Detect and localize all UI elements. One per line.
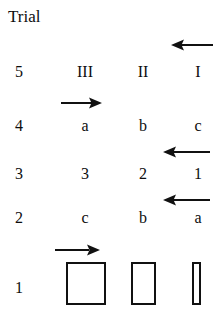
row3-col3: 1 (178, 166, 218, 182)
row-label-2: 2 (5, 210, 33, 226)
bar-wide (66, 262, 106, 305)
row4-col1: a (65, 118, 105, 134)
row3-col2: 2 (123, 166, 163, 182)
row5-col3: I (178, 64, 218, 80)
row2-col3: a (178, 210, 218, 226)
row-label-3: 3 (5, 166, 33, 182)
row-label-4: 4 (5, 118, 33, 134)
trial-diagram: Trial 5 III II I 4 a b c 3 3 2 1 (0, 0, 220, 321)
row2-col1: c (65, 210, 105, 226)
row3-col1: 3 (65, 166, 105, 182)
page-title: Trial (8, 8, 40, 25)
row5-col1: III (65, 64, 105, 80)
row2-col2: b (123, 210, 163, 226)
row4-col2: b (123, 118, 163, 134)
bar-medium (131, 262, 156, 305)
arrow-left-row5 (171, 38, 214, 52)
arrow-left-row2 (163, 193, 211, 207)
row-label-5: 5 (5, 64, 33, 80)
arrow-left-row3 (163, 145, 211, 159)
arrow-right-row1 (55, 243, 100, 257)
row4-col3: c (178, 118, 218, 134)
arrow-right-row4 (61, 96, 102, 110)
row5-col2: II (123, 64, 163, 80)
bar-narrow (192, 262, 201, 305)
row-label-1: 1 (5, 280, 33, 296)
